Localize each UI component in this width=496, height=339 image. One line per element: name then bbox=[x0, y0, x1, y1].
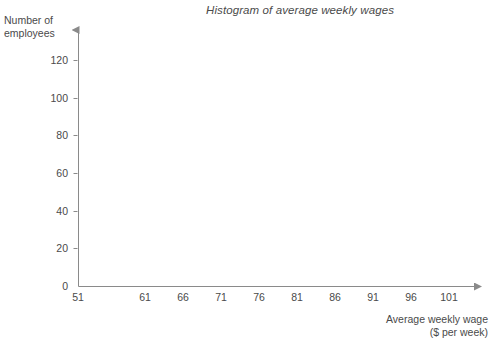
chart-container: Histogram of average weekly wages Number… bbox=[0, 0, 496, 339]
x-axis-tick-label: 76 bbox=[253, 291, 265, 303]
y-axis-tick-marks bbox=[74, 61, 78, 249]
y-axis-tick-label: 40 bbox=[34, 205, 68, 217]
x-axis-tick-label: 71 bbox=[215, 291, 227, 303]
x-axis-tick-label: 61 bbox=[139, 291, 151, 303]
x-axis-tick-label: 51 bbox=[72, 291, 84, 303]
x-axis-tick-label: 81 bbox=[291, 291, 303, 303]
y-axis-tick-label: 20 bbox=[34, 242, 68, 254]
x-axis-tick-label: 101 bbox=[440, 291, 458, 303]
x-axis-label: Average weekly wage ($ per week) bbox=[386, 313, 488, 338]
y-axis-tick-label: 120 bbox=[34, 54, 68, 66]
x-axis-label-line-1: Average weekly wage bbox=[386, 313, 488, 326]
x-axis-tick-label: 86 bbox=[329, 291, 341, 303]
y-axis-tick-label: 60 bbox=[34, 167, 68, 179]
x-axis-tick-label: 66 bbox=[177, 291, 189, 303]
plot-axes bbox=[0, 0, 496, 339]
x-axis-tick-label: 91 bbox=[367, 291, 379, 303]
y-axis-tick-label: 80 bbox=[34, 129, 68, 141]
y-axis-tick-label: 0 bbox=[34, 280, 68, 292]
x-axis-tick-label: 96 bbox=[405, 291, 417, 303]
x-axis-label-line-2: ($ per week) bbox=[386, 326, 488, 339]
y-axis-tick-label: 100 bbox=[34, 92, 68, 104]
